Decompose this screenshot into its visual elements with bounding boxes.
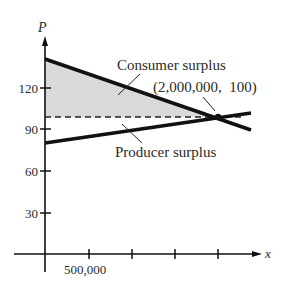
y-axis-arrow-icon	[42, 36, 48, 46]
y-axis-label: P	[37, 20, 47, 35]
producer-pointer	[122, 124, 142, 143]
y-tick-label-60: 60	[25, 164, 38, 179]
x-axis-label: x	[264, 246, 271, 261]
y-tick-label-120: 120	[19, 81, 39, 96]
producer-surplus-label: Producer surplus	[115, 144, 216, 160]
y-tick-label-90: 90	[25, 122, 38, 137]
x-tick-label-500000: 500,000	[64, 262, 106, 277]
equilibrium-point	[215, 114, 221, 120]
surplus-chart: P x 120 90 60 30 500,000 Consumer surplu…	[0, 0, 286, 292]
x-axis-arrow-icon	[252, 251, 262, 257]
point-pointer	[203, 97, 215, 111]
consumer-surplus-label: Consumer surplus	[117, 57, 226, 73]
y-tick-label-30: 30	[25, 206, 38, 221]
equilibrium-point-label: (2,000,000, 100)	[153, 79, 257, 96]
